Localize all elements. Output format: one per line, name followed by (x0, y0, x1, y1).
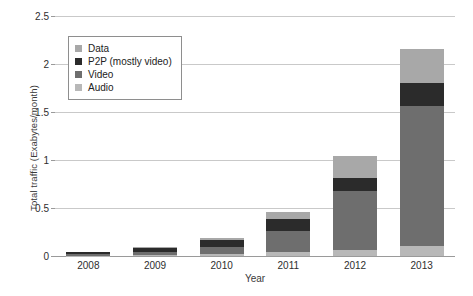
chart-figure: Total traffic (Exabytes/month) 00.511.52… (0, 0, 473, 296)
bar-segment-data[interactable] (400, 49, 444, 84)
y-tick-label: 1 (43, 155, 49, 166)
legend-item-label: P2P (mostly video) (88, 55, 172, 68)
y-tick-label: 2.5 (35, 11, 49, 22)
bar-segment-audio[interactable] (200, 254, 244, 256)
legend-swatch-icon (75, 45, 82, 52)
bar-stack[interactable] (333, 156, 377, 256)
bar-segment-video[interactable] (400, 106, 444, 246)
bar-segment-video[interactable] (333, 191, 377, 251)
legend-swatch-icon (75, 84, 82, 91)
legend-swatch-icon (75, 71, 82, 78)
bar-group[interactable]: 2012 (333, 16, 377, 256)
y-tick-label: 0.5 (35, 203, 49, 214)
x-tick-label: 2008 (66, 260, 110, 271)
bar-segment-video[interactable] (266, 231, 310, 252)
x-tick-label: 2010 (200, 260, 244, 271)
bar-segment-audio[interactable] (333, 250, 377, 256)
bar-segment-p2p-mostly-video[interactable] (266, 219, 310, 231)
bar-stack[interactable] (133, 247, 177, 256)
legend-item[interactable]: Video (75, 68, 172, 81)
legend-swatch-icon (75, 58, 82, 65)
bar-segment-data[interactable] (266, 212, 310, 219)
x-axis-title: Year (55, 273, 455, 284)
y-tick-label: 0 (43, 251, 49, 262)
bar-group[interactable]: 2013 (400, 16, 444, 256)
x-tick-label: 2012 (333, 260, 377, 271)
legend-item-label: Video (88, 68, 113, 81)
legend-item-label: Audio (88, 81, 114, 94)
legend-item[interactable]: P2P (mostly video) (75, 55, 172, 68)
x-tick-label: 2013 (400, 260, 444, 271)
bar-stack[interactable] (266, 212, 310, 256)
y-tick-label: 1.5 (35, 107, 49, 118)
bar-segment-audio[interactable] (400, 246, 444, 256)
bar-stack[interactable] (200, 238, 244, 256)
bar-stack[interactable] (400, 49, 444, 256)
bar-segment-data[interactable] (333, 156, 377, 178)
bar-segment-p2p-mostly-video[interactable] (333, 178, 377, 190)
bar-segment-audio[interactable] (266, 252, 310, 256)
y-tick-label: 2 (43, 59, 49, 70)
y-axis-title: Total traffic (Exabytes/month) (22, 0, 44, 296)
bar-segment-p2p-mostly-video[interactable] (200, 240, 244, 247)
x-tick-label: 2009 (133, 260, 177, 271)
bar-group[interactable]: 2010 (200, 16, 244, 256)
y-tick-mark (51, 256, 55, 257)
legend: DataP2P (mostly video)VideoAudio (68, 36, 182, 100)
x-tick-label: 2011 (266, 260, 310, 271)
legend-item[interactable]: Audio (75, 81, 172, 94)
legend-item[interactable]: Data (75, 42, 172, 55)
x-axis-line: 0 (55, 256, 455, 257)
bar-segment-p2p-mostly-video[interactable] (400, 83, 444, 106)
legend-item-label: Data (88, 42, 109, 55)
bar-segment-video[interactable] (200, 247, 244, 254)
bar-segment-audio[interactable] (133, 255, 177, 256)
bar-group[interactable]: 2011 (266, 16, 310, 256)
bar-stack[interactable] (66, 252, 110, 256)
